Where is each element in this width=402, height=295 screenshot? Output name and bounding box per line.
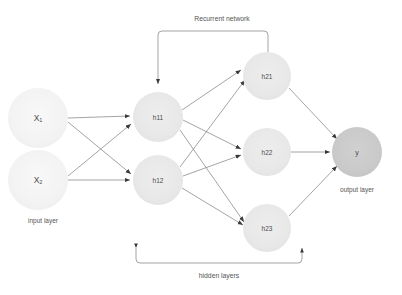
input-layer-caption: input layer [28,217,59,225]
edges-hidden1-to-hidden2 [180,70,245,225]
neural-network-diagram: Recurrent network hidden layers X1 X2 in… [0,0,402,295]
node-h22[interactable]: h22 [243,128,291,176]
edge-h23-y [289,166,337,216]
node-h11[interactable]: h11 [133,92,183,142]
edge-x2-h11 [68,124,131,176]
node-h21[interactable]: h21 [243,52,291,100]
node-h21-label: h21 [262,73,273,80]
node-y-label: y [355,149,359,157]
node-h12-label: h12 [153,177,164,184]
hidden-layers-label: hidden layers [199,272,240,280]
hidden-layer-2: h21 h22 h23 [243,52,291,252]
edges-input-to-hidden1 [68,116,131,180]
node-x1-subscript: 1 [39,118,42,124]
node-x2-subscript: 2 [39,180,42,186]
edge-h21-y [289,88,337,139]
edge-h12-h22 [183,155,241,176]
node-y[interactable]: y [332,127,382,177]
edge-x1-h12 [68,122,131,174]
node-h23-label: h23 [262,225,273,232]
edge-h12-h23 [182,188,243,225]
node-x1[interactable]: X1 [8,88,68,148]
output-layer: y output layer [332,127,382,194]
node-x2[interactable]: X2 [8,150,68,210]
output-layer-caption: output layer [340,186,375,194]
input-layer: X1 X2 input layer [8,88,68,225]
edge-h11-h21 [182,70,241,110]
hidden-layers-path [136,248,302,263]
edge-x1-h11 [68,116,130,118]
edge-h11-h23 [180,130,244,222]
hidden-layer-1: h11 h12 [133,92,183,205]
node-h12[interactable]: h12 [133,155,183,205]
hidden-layers-bracket: hidden layers [136,248,302,280]
node-h11-label: h11 [153,114,164,121]
node-h22-label: h22 [262,149,273,156]
recurrent-network-label: Recurrent network [194,15,250,22]
node-h23[interactable]: h23 [243,204,291,252]
edges-hidden2-to-output [289,88,337,216]
